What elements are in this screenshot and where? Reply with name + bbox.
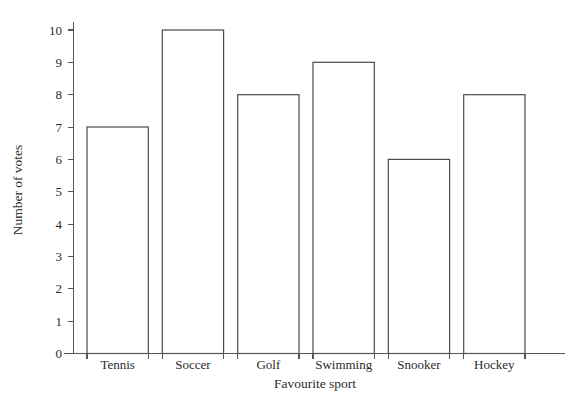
- bar: [388, 159, 449, 353]
- y-tick-label: 10: [49, 23, 62, 38]
- bar: [313, 62, 374, 353]
- bar-chart: 012345678910 TennisSoccerGolfSwimmingSno…: [0, 0, 579, 404]
- x-tick-label: Soccer: [175, 357, 211, 372]
- x-tick-label: Snooker: [397, 357, 441, 372]
- bar: [87, 127, 148, 354]
- y-axis-title: Number of votes: [10, 145, 25, 236]
- x-axis-title: Favourite sport: [274, 376, 356, 391]
- x-tick-group: [87, 354, 525, 360]
- chart-canvas: 012345678910 TennisSoccerGolfSwimmingSno…: [0, 0, 579, 404]
- y-tick-label: 3: [56, 249, 63, 264]
- y-tick-label: 5: [56, 184, 63, 199]
- y-tick-label: 1: [56, 314, 63, 329]
- bar: [162, 30, 223, 354]
- x-tick-labels: TennisSoccerGolfSwimmingSnookerHockey: [100, 357, 515, 372]
- y-tick-label: 9: [56, 55, 63, 70]
- y-tick-group: 012345678910: [49, 23, 74, 362]
- bars-group: [87, 30, 525, 354]
- x-tick-label: Hockey: [474, 357, 515, 372]
- x-tick-label: Tennis: [100, 357, 134, 372]
- y-tick-label: 7: [56, 120, 63, 135]
- x-tick-label: Swimming: [315, 357, 373, 372]
- x-tick-label: Golf: [256, 357, 281, 372]
- bar: [238, 95, 299, 354]
- y-axis: 012345678910: [49, 22, 74, 361]
- y-tick-label: 4: [56, 217, 63, 232]
- y-tick-label: 8: [56, 87, 63, 102]
- bar: [464, 95, 525, 354]
- y-tick-label: 0: [56, 346, 63, 361]
- y-tick-label: 6: [56, 152, 63, 167]
- y-tick-label: 2: [56, 281, 63, 296]
